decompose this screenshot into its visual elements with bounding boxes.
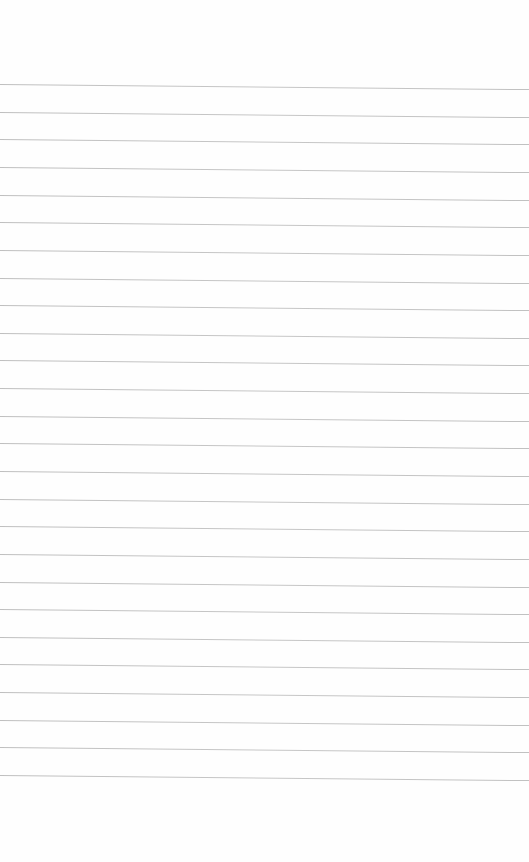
- ruled-line: [0, 747, 529, 753]
- lined-paper-page: [0, 0, 529, 862]
- ruled-line: [0, 250, 529, 256]
- ruled-line: [0, 637, 529, 643]
- ruled-line: [0, 388, 529, 394]
- ruled-line: [0, 582, 529, 588]
- ruled-line: [0, 499, 529, 505]
- ruled-line: [0, 526, 529, 532]
- ruled-line: [0, 664, 529, 670]
- ruled-line: [0, 139, 529, 145]
- ruled-line: [0, 609, 529, 615]
- ruled-line: [0, 416, 529, 422]
- ruled-line: [0, 775, 529, 781]
- ruled-line: [0, 471, 529, 477]
- ruled-line: [0, 222, 529, 228]
- ruled-line: [0, 278, 529, 284]
- ruled-line: [0, 333, 529, 339]
- ruled-line: [0, 554, 529, 560]
- ruled-line: [0, 195, 529, 201]
- ruled-line: [0, 720, 529, 726]
- ruled-line: [0, 167, 529, 173]
- ruled-line: [0, 112, 529, 118]
- ruled-line: [0, 84, 529, 90]
- ruled-line: [0, 692, 529, 698]
- ruled-line: [0, 360, 529, 366]
- ruled-line: [0, 305, 529, 311]
- ruled-line: [0, 443, 529, 449]
